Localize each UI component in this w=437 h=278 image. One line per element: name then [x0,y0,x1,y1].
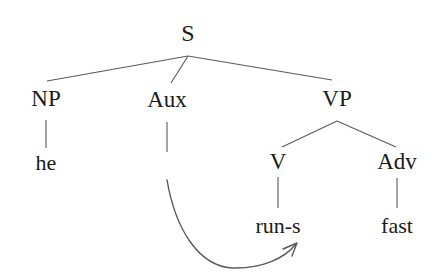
syntax-tree-diagram: S NP Aux VP he V Adv run-s fast [0,0,437,278]
leaf-fast: fast [381,215,413,237]
node-adv: Adv [377,150,417,173]
edge-vp-adv [337,121,396,147]
edge-s-vp [188,56,332,80]
tree-lines-layer [0,0,437,278]
node-aux: Aux [147,88,187,111]
node-s: S [181,21,194,45]
edge-vp-v [282,121,337,147]
leaf-run-s: run-s [255,215,300,237]
node-np: NP [31,87,60,110]
edge-s-aux [171,56,188,83]
node-vp: VP [322,87,351,110]
node-v: V [270,150,287,173]
edge-s-np [47,56,188,81]
leaf-he: he [36,152,57,174]
